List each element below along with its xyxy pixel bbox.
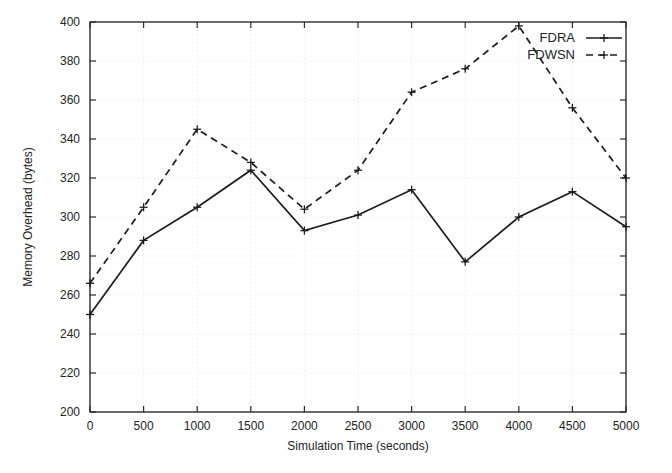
- x-tick-label: 4000: [505, 419, 532, 433]
- y-axis-title: Memory Overhead (bytes): [21, 147, 35, 286]
- y-tick-label: 300: [60, 210, 80, 224]
- legend-label-fdwsn: FDWSN: [527, 47, 575, 62]
- legend-label-fdra: FDRA: [540, 30, 576, 45]
- y-tick-label: 220: [60, 366, 80, 380]
- y-tick-label: 200: [60, 405, 80, 419]
- y-tick-label: 380: [60, 54, 80, 68]
- chart-figure: 200220240260280300320340360380400 050010…: [0, 0, 672, 473]
- x-axis-title: Simulation Time (seconds): [287, 439, 428, 453]
- y-tick-label: 360: [60, 93, 80, 107]
- y-tick-label: 240: [60, 327, 80, 341]
- x-tick-label: 500: [134, 419, 154, 433]
- x-tick-label: 5000: [613, 419, 640, 433]
- x-tick-label: 3500: [452, 419, 479, 433]
- y-tick-label: 400: [60, 15, 80, 29]
- figure-background: [0, 0, 672, 473]
- x-tick-label: 2500: [345, 419, 372, 433]
- x-tick-label: 1000: [184, 419, 211, 433]
- x-tick-label: 3000: [398, 419, 425, 433]
- y-tick-label: 320: [60, 171, 80, 185]
- x-tick-label: 0: [87, 419, 94, 433]
- y-tick-label: 280: [60, 249, 80, 263]
- x-tick-label: 1500: [237, 419, 264, 433]
- x-tick-label: 4500: [559, 419, 586, 433]
- y-tick-label: 260: [60, 288, 80, 302]
- y-tick-label: 340: [60, 132, 80, 146]
- line-chart-svg: 200220240260280300320340360380400 050010…: [0, 0, 672, 473]
- x-tick-label: 2000: [291, 419, 318, 433]
